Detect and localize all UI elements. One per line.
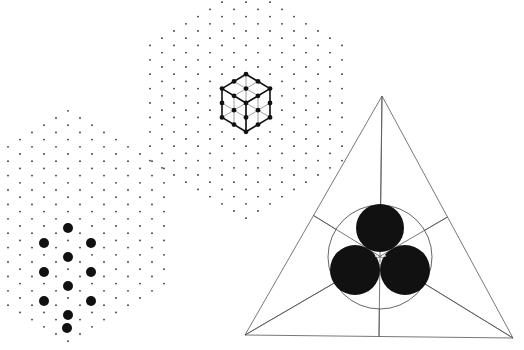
lattice-point [79, 117, 81, 119]
lattice-point [317, 59, 319, 61]
lattice-point [139, 196, 141, 198]
lattice-point [257, 196, 259, 198]
lattice-point [209, 95, 211, 97]
lattice-point [149, 88, 151, 90]
lattice-point [269, 174, 271, 176]
lattice-point [149, 117, 151, 119]
lattice-point [91, 153, 93, 155]
lattice-point [115, 297, 117, 299]
lattice-point [127, 232, 129, 234]
lattice-point [91, 225, 93, 227]
cube-vertex [244, 101, 249, 106]
lattice-point [209, 138, 211, 140]
cube-vertex [232, 122, 237, 127]
lattice-point [19, 168, 21, 170]
center-mark [384, 255, 386, 257]
lattice-point [139, 268, 141, 270]
lattice-point [161, 81, 163, 83]
lattice-point [341, 131, 343, 133]
lattice-point [55, 304, 57, 306]
lattice-point [257, 52, 259, 54]
lattice-point [79, 304, 81, 306]
lattice-point [43, 168, 45, 170]
lattice-point [281, 9, 283, 11]
lattice-point [79, 319, 81, 321]
lattice-point [209, 66, 211, 68]
lattice-point [31, 304, 33, 306]
lattice-point [185, 109, 187, 111]
lattice-point [257, 9, 259, 11]
lattice-point [245, 217, 247, 219]
lattice-point [139, 297, 141, 299]
lattice-point [55, 160, 57, 162]
lattice-point [245, 203, 247, 205]
cube-vertex [256, 122, 261, 127]
lattice-point [293, 88, 295, 90]
lattice-point [329, 109, 331, 111]
lattice-point [7, 232, 9, 234]
lattice-point [317, 117, 319, 119]
lattice-point [197, 131, 199, 133]
lattice-point [31, 218, 33, 220]
lattice-point [281, 196, 283, 198]
lattice-point [55, 132, 57, 134]
lattice-point [127, 304, 129, 306]
lattice-point [55, 204, 57, 206]
lattice-point [209, 52, 211, 54]
lattice-point [149, 73, 151, 75]
lattice-point [79, 218, 81, 220]
lattice-point [31, 232, 33, 234]
large-dot [39, 267, 49, 277]
lattice-point [221, 16, 223, 18]
lattice-point [67, 211, 69, 213]
lattice-point [151, 175, 153, 177]
lattice-point [161, 138, 163, 140]
lattice-point [305, 81, 307, 83]
lattice-point [139, 225, 141, 227]
lattice-point [317, 131, 319, 133]
lattice-point [103, 175, 105, 177]
figure-canvas [0, 0, 524, 350]
lattice-point [115, 225, 117, 227]
lattice-point [43, 283, 45, 285]
lattice-point [317, 145, 319, 147]
lattice-point [161, 153, 163, 155]
lattice-point [245, 30, 247, 32]
lattice-point [161, 109, 163, 111]
lattice-point [55, 261, 57, 263]
lattice-point [173, 45, 175, 47]
lattice-point [31, 276, 33, 278]
lattice-point [149, 160, 151, 162]
lattice-point [103, 160, 105, 162]
lattice-point [185, 37, 187, 39]
lattice-point [281, 52, 283, 54]
lattice-point [257, 23, 259, 25]
lattice-point [163, 196, 165, 198]
lattice-point [293, 117, 295, 119]
lattice-point [293, 59, 295, 61]
lattice-point [7, 160, 9, 162]
lattice-point [317, 160, 319, 162]
lattice-point [139, 240, 141, 242]
lattice-point [19, 211, 21, 213]
lattice-point [91, 283, 93, 285]
filled-disc [380, 245, 430, 295]
lattice-point [245, 174, 247, 176]
lattice-point [185, 81, 187, 83]
lattice-point [173, 117, 175, 119]
lattice-point [173, 59, 175, 61]
lattice-point [67, 297, 69, 299]
lattice-point [185, 138, 187, 140]
lattice-point [151, 290, 153, 292]
lattice-point [79, 160, 81, 162]
lattice-point [115, 211, 117, 213]
lattice-point [43, 326, 45, 328]
lattice-point [185, 153, 187, 155]
lattice-point [151, 247, 153, 249]
lattice-point [281, 95, 283, 97]
lattice-point [127, 247, 129, 249]
lattice-point [149, 131, 151, 133]
lattice-point [329, 124, 331, 126]
lattice-point [127, 276, 129, 278]
lattice-point [55, 333, 57, 335]
